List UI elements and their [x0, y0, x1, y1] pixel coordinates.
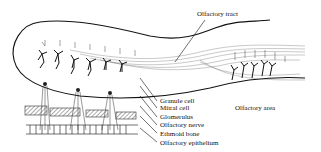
- label-ethmoid-bone: Ethmoid bone: [160, 130, 199, 138]
- label-glomerulus: Glomerulus: [160, 113, 193, 121]
- label-olfactory-nerve: Olfactory nerve: [160, 121, 204, 129]
- olfactory-epithelium: [26, 125, 138, 134]
- label-mitral-cell: Mitral cell: [160, 104, 189, 112]
- label-olfactory-tract: Olfactory tract: [197, 10, 238, 18]
- olfactory-bulb-outline: [13, 20, 305, 98]
- label-olfactory-area: Olfactory area: [235, 104, 275, 112]
- label-olfactory-epithelium: Olfactory epithelium: [160, 139, 219, 147]
- glomeruli: [43, 82, 112, 95]
- ethmoid-bone: [25, 106, 136, 119]
- mitral-cells: [38, 50, 276, 80]
